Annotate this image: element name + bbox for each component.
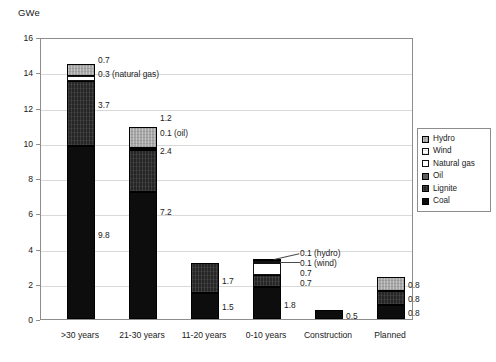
bar-segment-wind[interactable] xyxy=(253,261,281,263)
gridline-10 xyxy=(41,145,412,146)
y-tick-label-0: 0 xyxy=(3,315,33,325)
value-label-b3-wind: 0.1 (wind) xyxy=(300,258,337,268)
value-label-b0-coal: 9.8 xyxy=(98,230,110,240)
value-label-b1-coal: 7.2 xyxy=(160,207,172,217)
bar-stack-1[interactable] xyxy=(129,127,157,319)
gridline-4 xyxy=(41,251,412,252)
bar-segment-natural-gas[interactable] xyxy=(67,76,95,81)
bar-segment-coal[interactable] xyxy=(315,310,343,319)
legend-swatch-natural-gas-icon xyxy=(422,160,429,167)
bar-segment-lignite[interactable] xyxy=(191,263,219,293)
bar-segment-hydro[interactable] xyxy=(377,277,405,291)
bar-segment-natural-gas[interactable] xyxy=(253,263,281,275)
chart-container: GWe 16 14 12 10 8 6 4 2 0 xyxy=(0,0,496,362)
legend-label-lignite: Lignite xyxy=(433,185,457,193)
chart-legend: Hydro Wind Natural gas Oil Lignite Coal xyxy=(417,128,491,212)
value-label-b2-lignite: 1.7 xyxy=(222,276,234,286)
bar-segment-hydro[interactable] xyxy=(67,64,95,76)
y-tick-label-2: 2 xyxy=(3,280,33,290)
x-axis-label-over-30-years: >30 years xyxy=(61,330,99,340)
bar-stack-5[interactable] xyxy=(377,277,405,319)
value-label-b1-hydro: 1.2 xyxy=(160,113,172,123)
value-label-b2-coal: 1.5 xyxy=(222,302,234,312)
x-axis-label-planned: Planned xyxy=(374,330,406,340)
bar-segment-oil[interactable] xyxy=(129,148,157,150)
leader-line-b3-hydro xyxy=(274,253,300,260)
legend-swatch-coal-icon xyxy=(422,198,429,205)
y-tick-label-8: 8 xyxy=(3,174,33,184)
value-label-b5-hydro: 0.8 xyxy=(408,280,420,290)
bar-stack-3[interactable] xyxy=(253,259,281,319)
y-axis-labels: 16 14 12 10 8 6 4 2 0 xyxy=(0,0,33,362)
y-tick-0 xyxy=(36,320,40,321)
value-label-b4-coal: 0.5 xyxy=(346,311,358,321)
plot-area: 0.7 0.3 (natural gas) 3.7 9.8 1.2 0.1 (o… xyxy=(40,38,413,320)
y-tick-label-4: 4 xyxy=(3,245,33,255)
value-label-b0-lignite: 3.7 xyxy=(98,100,110,110)
gridline-12 xyxy=(41,110,412,111)
value-label-b1-oil: 0.1 (oil) xyxy=(160,128,188,138)
bar-segment-coal[interactable] xyxy=(377,305,405,319)
y-tick-label-12: 12 xyxy=(3,104,33,114)
gridline-14 xyxy=(41,74,412,75)
y-tick-label-10: 10 xyxy=(3,139,33,149)
value-label-b3-hydro: 0.1 (hydro) xyxy=(300,248,341,258)
x-axis-label-0-10-years: 0-10 years xyxy=(246,330,287,340)
gridline-6 xyxy=(41,215,412,216)
bar-segment-lignite[interactable] xyxy=(129,150,157,192)
bar-stack-2[interactable] xyxy=(191,263,219,319)
y-tick-label-6: 6 xyxy=(3,209,33,219)
value-label-b5-lignite: 0.8 xyxy=(408,294,420,304)
legend-item-coal[interactable]: Coal xyxy=(422,195,487,207)
legend-item-oil[interactable]: Oil xyxy=(422,170,487,182)
y-tick-label-14: 14 xyxy=(3,68,33,78)
legend-item-wind[interactable]: Wind xyxy=(422,145,487,157)
legend-item-lignite[interactable]: Lignite xyxy=(422,183,487,195)
x-axis-label-21-30-years: 21-30 years xyxy=(119,330,164,340)
legend-swatch-wind-icon xyxy=(422,148,429,155)
bar-segment-lignite[interactable] xyxy=(377,291,405,305)
bar-segment-hydro[interactable] xyxy=(129,127,157,148)
x-axis-label-construction: Construction xyxy=(304,330,352,340)
value-label-b5-coal: 0.8 xyxy=(408,308,420,318)
legend-swatch-lignite-icon xyxy=(422,185,429,192)
bar-segment-lignite[interactable] xyxy=(253,275,281,287)
value-label-b1-lignite: 2.4 xyxy=(160,146,172,156)
legend-label-hydro: Hydro xyxy=(433,135,455,143)
value-label-b0-hydro: 0.7 xyxy=(98,55,110,65)
legend-swatch-oil-icon xyxy=(422,173,429,180)
bar-segment-coal[interactable] xyxy=(67,146,95,319)
legend-label-natural-gas: Natural gas xyxy=(433,160,475,168)
y-tick-label-16: 16 xyxy=(3,33,33,43)
bar-stack-0[interactable] xyxy=(67,64,95,320)
leader-line-b3-wind xyxy=(280,262,300,263)
legend-label-coal: Coal xyxy=(433,197,450,205)
legend-item-hydro[interactable]: Hydro xyxy=(422,133,487,145)
x-axis-label-11-20-years: 11-20 years xyxy=(182,330,227,340)
legend-swatch-hydro-icon xyxy=(422,136,429,143)
legend-item-natural-gas[interactable]: Natural gas xyxy=(422,158,487,170)
legend-label-oil: Oil xyxy=(433,172,443,180)
bar-segment-lignite[interactable] xyxy=(67,81,95,146)
legend-label-wind: Wind xyxy=(433,147,452,155)
bar-segment-coal[interactable] xyxy=(129,192,157,319)
value-label-b3-coal: 1.8 xyxy=(284,300,296,310)
gridline-8 xyxy=(41,180,412,181)
bar-stack-4[interactable] xyxy=(315,310,343,319)
value-label-b0-gas: 0.3 (natural gas) xyxy=(98,69,159,79)
value-label-b3-gas: 0.7 xyxy=(300,268,312,278)
bar-segment-coal[interactable] xyxy=(253,287,281,319)
value-label-b3-lignite: 0.7 xyxy=(300,278,312,288)
bar-segment-coal[interactable] xyxy=(191,293,219,319)
